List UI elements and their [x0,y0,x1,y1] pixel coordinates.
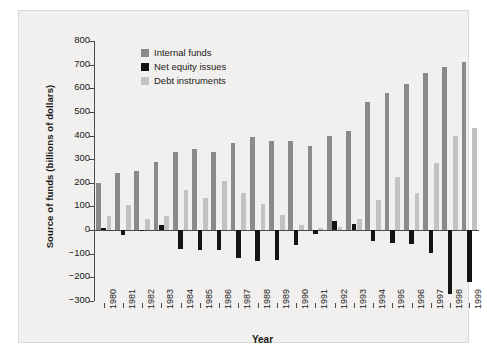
bar-internal-funds-1996 [404,84,409,231]
bar-net-equity-issues-1991 [313,230,318,234]
x-tick-label: 1999 [473,289,483,309]
x-tick-label: 1990 [300,289,310,309]
bar-debt-instruments-1991 [318,228,323,230]
y-tick-label: 0 [85,223,90,234]
bar-group [327,41,342,301]
bar-debt-instruments-1988 [261,204,266,230]
bar-group [385,41,400,301]
legend-item: Internal funds [141,47,226,58]
bar-net-equity-issues-1983 [159,225,164,230]
bar-group [442,41,457,301]
x-tick-mark [315,303,316,308]
bar-debt-instruments-1996 [415,193,420,230]
x-tick-label: 1981 [127,289,137,309]
y-tick-label: 700 [74,58,90,69]
y-tick-label: 300 [74,152,90,163]
x-tick-mark [238,303,239,308]
bar-net-equity-issues-1999 [467,230,472,282]
legend-label: Debt instruments [154,75,226,86]
x-tick-label: 1980 [108,289,118,309]
legend-swatch-debt-instruments [141,77,149,85]
x-tick-label: 1995 [396,289,406,309]
x-tick-mark [392,303,393,308]
x-tick-mark [450,303,451,308]
bar-internal-funds-1985 [192,149,197,231]
zero-baseline [94,230,479,231]
x-tick-label: 1985 [204,289,214,309]
x-tick-mark [219,303,220,308]
bar-net-equity-issues-1987 [236,230,241,258]
bar-internal-funds-1987 [231,143,236,230]
bar-debt-instruments-1983 [164,216,169,230]
bar-debt-instruments-1990 [299,225,304,230]
y-tick-label: 100 [74,199,90,210]
bar-internal-funds-1995 [385,93,390,230]
x-tick-label: 1986 [223,289,233,309]
y-tick-label: 600 [74,81,90,92]
bar-net-equity-issues-1985 [198,230,203,250]
bar-net-equity-issues-1986 [217,230,222,250]
bar-internal-funds-1994 [365,102,370,230]
x-axis-title: Year [19,334,487,345]
x-tick-mark [412,303,413,308]
x-tick-mark [354,303,355,308]
bar-debt-instruments-1995 [395,177,400,230]
x-tick-label: 1996 [416,289,426,309]
bar-net-equity-issues-1998 [448,230,453,294]
bar-net-equity-issues-1992 [332,221,337,230]
x-tick-mark [469,303,470,308]
y-axis-title: Source of funds (billions of dollars) [44,67,55,267]
x-tick-mark [123,303,124,308]
x-tick-label: 1983 [165,289,175,309]
chart-panel: Source of funds (billions of dollars) 80… [18,10,469,343]
bar-debt-instruments-1999 [472,128,477,230]
bar-net-equity-issues-1996 [409,230,414,244]
bar-debt-instruments-1998 [453,136,458,231]
bar-net-equity-issues-1984 [178,230,183,249]
bar-internal-funds-1993 [346,131,351,230]
bar-group [365,41,380,301]
bar-net-equity-issues-1990 [294,230,299,245]
bar-debt-instruments-1992 [338,227,343,230]
bar-internal-funds-1983 [154,162,159,231]
bar-debt-instruments-1987 [241,193,246,230]
bar-internal-funds-1982 [134,171,139,230]
bar-internal-funds-1997 [423,73,428,230]
legend-swatch-internal-funds [141,49,149,57]
bar-net-equity-issues-1994 [371,230,376,241]
bar-net-equity-issues-1981 [121,230,126,235]
bar-internal-funds-1998 [442,67,447,230]
x-tick-mark [277,303,278,308]
x-tick-label: 1992 [339,289,349,309]
x-tick-mark [142,303,143,308]
bar-group [269,41,284,301]
y-tick-label: 500 [74,105,90,116]
bar-internal-funds-1981 [115,173,120,230]
x-tick-mark [200,303,201,308]
bar-internal-funds-1989 [269,141,274,230]
bar-group [250,41,265,301]
x-tick-mark [431,303,432,308]
y-tick-label: 400 [74,129,90,140]
bar-debt-instruments-1981 [126,205,131,230]
bar-internal-funds-1984 [173,152,178,230]
bar-internal-funds-1988 [250,137,255,230]
bar-debt-instruments-1993 [357,219,362,230]
bar-debt-instruments-1980 [107,216,112,230]
bar-internal-funds-1980 [96,183,101,230]
bar-debt-instruments-1982 [145,219,150,230]
x-tick-mark [161,303,162,308]
y-tick-label: −200 [69,270,90,281]
x-tick-label: 1989 [281,289,291,309]
bar-net-equity-issues-1989 [275,230,280,260]
bar-group [288,41,303,301]
bar-net-equity-issues-1982 [140,230,145,231]
x-tick-mark [373,303,374,308]
x-tick-label: 1984 [185,289,195,309]
x-tick-label: 1997 [435,289,445,309]
bar-group [115,41,130,301]
x-tick-label: 1994 [377,289,387,309]
legend-item: Debt instruments [141,75,226,86]
y-tick-label: −300 [69,294,90,305]
bar-group [346,41,361,301]
